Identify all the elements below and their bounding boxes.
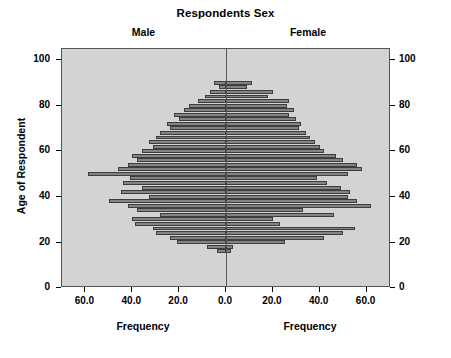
bar-male-age-76 [174, 113, 226, 117]
bar-male-age-78 [184, 108, 226, 112]
bar-male-age-90 [214, 81, 226, 85]
x-tick-label-male-0.0: 0.0 [205, 295, 245, 306]
x-tick-male-20.0 [178, 287, 179, 292]
bar-male-age-16 [217, 249, 226, 253]
bar-male-age-66 [156, 136, 226, 140]
bar-male-age-52 [118, 167, 226, 171]
y-tick-label-right-60: 60 [399, 144, 429, 155]
y-tick-left-40 [56, 196, 61, 197]
x-tick-label-male-20.0: 20.0 [158, 295, 198, 306]
bar-female-age-50 [226, 172, 348, 176]
population-pyramid-chart: Respondents Sex Male Female 002020404060… [0, 0, 451, 358]
bar-female-age-72 [226, 122, 301, 126]
bar-male-age-58 [132, 154, 226, 158]
bar-male-age-56 [137, 158, 226, 162]
bar-female-age-80 [226, 104, 287, 108]
bar-female-age-54 [226, 163, 357, 167]
bar-male-age-80 [189, 104, 226, 108]
bar-male-age-20 [177, 240, 226, 244]
y-tick-right-40 [390, 196, 395, 197]
y-tick-label-right-40: 40 [399, 190, 429, 201]
bar-female-age-86 [226, 90, 273, 94]
bar-male-age-30 [132, 217, 226, 221]
x-tick-female-60.0 [366, 287, 367, 292]
bar-male-age-50 [88, 172, 226, 176]
bar-male-age-46 [123, 181, 226, 185]
bar-female-age-32 [226, 213, 334, 217]
bar-female-age-74 [226, 117, 296, 121]
y-tick-left-0 [56, 287, 61, 288]
y-tick-left-80 [56, 105, 61, 106]
bar-female-age-70 [226, 126, 299, 130]
bar-female-age-58 [226, 154, 336, 158]
bar-male-age-38 [109, 199, 226, 203]
bar-female-age-36 [226, 204, 371, 208]
bar-female-age-28 [226, 222, 280, 226]
y-tick-label-right-80: 80 [399, 99, 429, 110]
bar-male-age-68 [160, 131, 226, 135]
y-tick-label-right-100: 100 [399, 53, 429, 64]
bar-female-age-22 [226, 236, 324, 240]
bar-female-age-38 [226, 199, 357, 203]
bar-female-age-26 [226, 227, 355, 231]
y-tick-right-80 [390, 105, 395, 106]
bar-male-age-22 [170, 236, 226, 240]
bar-male-age-48 [130, 176, 226, 180]
center-axis-divider [226, 49, 227, 286]
y-tick-right-100 [390, 59, 395, 60]
x-tick-male-40.0 [131, 287, 132, 292]
bar-male-age-54 [128, 163, 226, 167]
bar-female-age-64 [226, 140, 315, 144]
bar-female-age-60 [226, 149, 324, 153]
bar-male-age-88 [219, 85, 226, 89]
bar-male-age-26 [153, 227, 226, 231]
bar-female-age-88 [226, 85, 247, 89]
y-tick-label-left-20: 20 [20, 236, 50, 247]
y-tick-label-right-0: 0 [399, 281, 429, 292]
y-tick-right-20 [390, 242, 395, 243]
bar-male-age-18 [207, 245, 226, 249]
x-tick-female-20.0 [272, 287, 273, 292]
bar-male-age-32 [160, 213, 226, 217]
y-tick-label-left-0: 0 [20, 281, 50, 292]
bar-female-age-62 [226, 145, 320, 149]
x-tick-male-0.0 [225, 287, 226, 292]
bar-male-age-82 [198, 99, 226, 103]
bar-female-age-68 [226, 131, 306, 135]
bar-male-age-28 [135, 222, 226, 226]
x-tick-label-female-20.0: 20.0 [252, 295, 292, 306]
y-tick-right-0 [390, 287, 395, 288]
bar-male-age-72 [167, 122, 226, 126]
y-tick-left-60 [56, 150, 61, 151]
y-tick-left-20 [56, 242, 61, 243]
bar-female-age-24 [226, 231, 343, 235]
bar-female-age-20 [226, 240, 285, 244]
x-tick-male-60.0 [84, 287, 85, 292]
bar-female-age-46 [226, 181, 327, 185]
bar-female-age-44 [226, 186, 341, 190]
y-tick-left-100 [56, 59, 61, 60]
panel-header-female: Female [226, 26, 390, 38]
plot-area [61, 48, 390, 287]
bar-male-age-36 [128, 204, 226, 208]
bar-female-age-84 [226, 95, 268, 99]
bar-female-age-82 [226, 99, 289, 103]
bar-female-age-34 [226, 208, 303, 212]
x-tick-female-40.0 [319, 287, 320, 292]
bar-male-age-86 [210, 90, 226, 94]
bar-male-age-70 [170, 126, 226, 130]
x-tick-label-female-40.0: 40.0 [299, 295, 339, 306]
y-axis-title-left: Age of Respondent [15, 101, 27, 231]
bar-male-age-74 [179, 117, 226, 121]
y-tick-right-60 [390, 150, 395, 151]
bar-male-age-42 [121, 190, 226, 194]
bar-male-age-64 [149, 140, 226, 144]
y-tick-label-right-20: 20 [399, 236, 429, 247]
bar-male-age-62 [153, 145, 226, 149]
bar-male-age-44 [142, 186, 226, 190]
bar-female-age-30 [226, 217, 273, 221]
bar-male-age-40 [149, 195, 226, 199]
bar-female-age-90 [226, 81, 252, 85]
bar-male-age-24 [156, 231, 226, 235]
bar-female-age-56 [226, 158, 343, 162]
